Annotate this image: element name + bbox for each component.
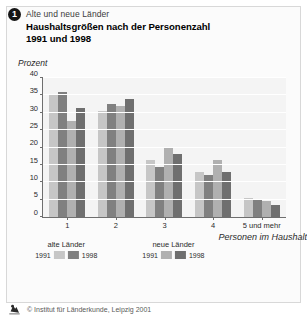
legend-keys: 19911998 [35, 251, 97, 259]
y-axis-tick-mark [40, 164, 43, 165]
legend-year-label: 1991 [35, 252, 51, 259]
x-axis-tick-label: 3 [162, 221, 166, 230]
chart-figure: 1 Alte und neue Länder Haushaltsgrößen n… [0, 0, 307, 324]
plot-area: 051015202530354012345 und mehr [42, 78, 286, 218]
legend-year-label: 1998 [189, 252, 205, 259]
bar [244, 198, 253, 217]
bar [213, 160, 222, 217]
x-axis-tick-mark [262, 217, 263, 220]
x-axis-tick-mark [165, 217, 166, 220]
legend-group-caption: alte Länder [35, 240, 97, 249]
y-axis-tick-mark [40, 77, 43, 78]
bar-group [140, 78, 189, 217]
y-axis-tick-label: 35 [30, 86, 38, 95]
gridline [43, 199, 286, 200]
y-axis-tick-mark [40, 199, 43, 200]
bar-group [43, 78, 92, 217]
chart-subtitle: Alte und neue Länder [26, 8, 109, 21]
y-axis-tick-label: 30 [30, 103, 38, 112]
figure-number-badge: 1 [8, 8, 21, 21]
bar [222, 172, 231, 217]
y-axis-tick-mark [40, 181, 43, 182]
bar [155, 167, 164, 217]
y-axis-tick-label: 5 [34, 190, 38, 199]
legend-group-caption: neue Länder [142, 240, 204, 249]
y-axis-tick-mark [40, 112, 43, 113]
bar [76, 108, 85, 217]
legend-swatch [68, 251, 79, 259]
y-axis-tick-label: 40 [30, 68, 38, 77]
legend-year-label: 1998 [82, 252, 98, 259]
legend-swatch [54, 251, 65, 259]
legend-keys: 19911998 [142, 251, 204, 259]
y-axis-tick-mark [40, 147, 43, 148]
bar [146, 160, 155, 217]
bar [271, 205, 280, 217]
x-axis-tick-label: 1 [65, 221, 69, 230]
x-axis-tick-label: 4 [211, 221, 215, 230]
x-axis-tick-mark [116, 217, 117, 220]
legend-group: neue Länder19911998 [142, 240, 204, 259]
chart-title-line2: 1991 und 1998 [26, 33, 299, 45]
legend-swatch [175, 251, 186, 259]
y-axis-tick-mark [40, 216, 43, 217]
legend-group: alte Länder19911998 [35, 240, 97, 259]
gridline [43, 164, 286, 165]
bar [164, 148, 173, 218]
legend-year-label: 1991 [142, 252, 158, 259]
x-axis-tick-label: 2 [114, 221, 118, 230]
y-axis-tick-label: 25 [30, 120, 38, 129]
y-axis-tick-label: 0 [34, 207, 38, 216]
bar [253, 200, 262, 217]
chart-header: 1 Alte und neue Länder Haushaltsgrößen n… [8, 8, 299, 45]
gridline [43, 94, 286, 95]
y-axis-tick-mark [40, 129, 43, 130]
bar [262, 201, 271, 217]
gridline [43, 112, 286, 113]
bar [116, 106, 125, 217]
y-axis-tick-mark [40, 94, 43, 95]
gridline [43, 77, 286, 78]
bars-layer [43, 78, 286, 217]
y-axis-tick-label: 20 [30, 138, 38, 147]
eyebrow-row: 1 Alte und neue Länder [8, 8, 299, 21]
y-axis-tick-label: 15 [30, 155, 38, 164]
y-axis-tick-label: 10 [30, 173, 38, 182]
gridline [43, 181, 286, 182]
institute-logo-icon [8, 303, 21, 316]
chart-legend: alte Länder19911998neue Länder19911998 [18, 240, 286, 274]
bar-group [237, 78, 286, 217]
bar-group [189, 78, 238, 217]
gridline [43, 147, 286, 148]
x-axis-tick-label: 5 und mehr [243, 221, 281, 230]
bar [67, 121, 76, 217]
plot-wrapper: 051015202530354012345 und mehr [18, 72, 286, 230]
chart-title-line1: Haushaltsgrößen nach der Personenzahl [26, 21, 299, 33]
bar [107, 104, 116, 217]
y-axis-unit-label: Prozent [18, 58, 47, 68]
gridline [43, 129, 286, 130]
legend-swatch [161, 251, 172, 259]
bar [195, 172, 204, 217]
chart-title-block: Haushaltsgrößen nach der Personenzahl 19… [26, 21, 299, 45]
bar-group [92, 78, 141, 217]
x-axis-tick-mark [67, 217, 68, 220]
chart-footer: © Institut für Länderkunde, Leipzig 2001 [8, 303, 151, 316]
copyright-text: © Institut für Länderkunde, Leipzig 2001 [27, 306, 151, 313]
x-axis-tick-mark [213, 217, 214, 220]
